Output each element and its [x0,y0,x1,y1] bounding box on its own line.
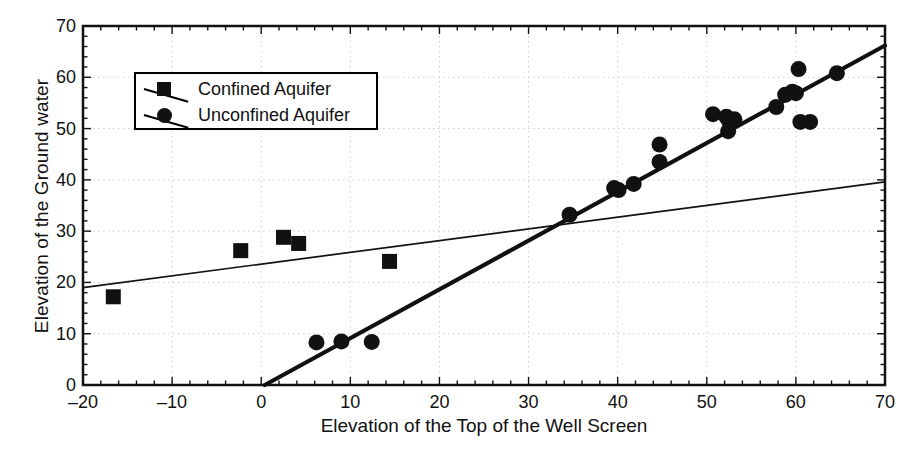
legend-item-unconfined-aquifer: Unconfined Aquifer [136,102,380,128]
y-tick-label: 10 [42,323,76,344]
circle-marker-icon [136,102,198,128]
y-tick-label: 20 [42,272,76,293]
x-axis-label: Elevation of the Top of the Well Screen [83,415,885,437]
x-tick-label: 50 [697,392,717,413]
y-tick-label: 60 [42,67,76,88]
y-tick-label: 0 [42,375,76,396]
x-tick-label: 60 [786,392,806,413]
x-tick-label: 70 [875,392,895,413]
chart-root: Elevation of the Ground water Elevation … [0,0,914,453]
y-tick-label: 40 [42,169,76,190]
x-tick-label: 0 [256,392,266,413]
x-tick-label: 10 [340,392,360,413]
legend-label-confined: Confined Aquifer [198,79,331,100]
y-tick-label: 50 [42,118,76,139]
x-tick-label: 30 [519,392,539,413]
square-marker-icon [136,76,198,102]
legend: Confined Aquifer Unconfined Aquifer [134,72,378,130]
x-tick-label: –10 [157,392,187,413]
scatter-plot-canvas [0,0,914,453]
legend-label-unconfined: Unconfined Aquifer [198,105,350,126]
x-tick-label: 40 [608,392,628,413]
x-tick-label: 20 [429,392,449,413]
legend-item-confined-aquifer: Confined Aquifer [136,76,380,102]
y-tick-label: 70 [42,16,76,37]
y-tick-label: 30 [42,221,76,242]
